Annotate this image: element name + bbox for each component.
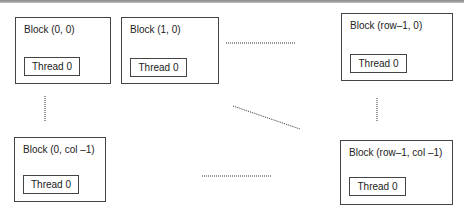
block-label: Block (row–1, col –1) xyxy=(349,147,442,158)
block-1-0: Block (1, 0) Thread 0 xyxy=(121,17,219,84)
thread-box: Thread 0 xyxy=(130,58,187,77)
thread-box: Thread 0 xyxy=(349,177,406,196)
block-label: Block (1, 0) xyxy=(130,24,181,35)
block-label: Block (0, 0) xyxy=(24,24,75,35)
dotted-connector-diagonal xyxy=(233,106,300,129)
thread-box: Thread 0 xyxy=(23,175,79,194)
thread-label: Thread 0 xyxy=(32,61,72,72)
thread-label: Thread 0 xyxy=(357,181,397,192)
thread-label: Thread 0 xyxy=(358,58,398,69)
block-row-1-0: Block (row–1, 0) Thread 0 xyxy=(341,13,453,81)
block-0-0: Block (0, 0) Thread 0 xyxy=(15,17,111,84)
block-label: Block (row–1, 0) xyxy=(350,20,422,31)
block-row-1-col-1: Block (row–1, col –1) Thread 0 xyxy=(340,140,453,205)
thread-box: Thread 0 xyxy=(350,54,407,73)
thread-label: Thread 0 xyxy=(138,62,178,73)
block-label: Block (0, col –1) xyxy=(23,144,95,155)
thread-label: Thread 0 xyxy=(31,179,71,190)
thread-box: Thread 0 xyxy=(24,57,80,76)
block-0-col-1: Block (0, col –1) Thread 0 xyxy=(14,137,106,202)
